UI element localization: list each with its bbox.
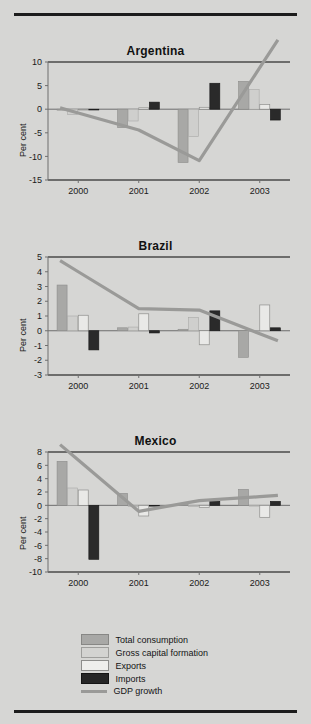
chart-legend: Total consumption Gross capital formatio… xyxy=(0,634,311,696)
bar-total-consumption xyxy=(178,329,188,330)
bar-exports xyxy=(260,305,270,331)
panel-brazil: Brazil Per cent 543210-1-2-3200020012002… xyxy=(0,217,311,412)
svg-text:-1: -1 xyxy=(34,341,42,351)
bar-imports xyxy=(149,102,159,109)
legend-item-exports: Exports xyxy=(81,660,231,671)
bar-exports xyxy=(139,314,149,331)
svg-text:-5: -5 xyxy=(34,128,42,138)
bar-imports xyxy=(210,83,220,109)
gross-capital-formation-swatch xyxy=(81,647,109,658)
legend-item-imports: Imports xyxy=(81,673,231,684)
legend-label-total-consumption: Total consumption xyxy=(116,635,189,645)
svg-text:0: 0 xyxy=(37,501,42,511)
svg-text:6: 6 xyxy=(37,461,42,471)
bar-gross-capital-formation xyxy=(128,109,138,121)
bar-gross-capital-formation xyxy=(249,505,259,506)
bar-exports xyxy=(199,505,209,507)
bar-imports xyxy=(89,331,99,350)
svg-text:4: 4 xyxy=(37,267,42,277)
legend-label-gdp-growth: GDP growth xyxy=(114,686,163,696)
svg-text:-2: -2 xyxy=(34,514,42,524)
x-axis-tick-label: 2002 xyxy=(189,186,209,196)
svg-text:3: 3 xyxy=(37,282,42,292)
bar-total-consumption xyxy=(118,328,128,331)
x-axis-tick-label: 2003 xyxy=(250,381,270,391)
bar-imports xyxy=(89,109,99,110)
x-axis-tick-label: 2003 xyxy=(250,186,270,196)
panel-mexico: Mexico Per cent 86420-2-4-6-8-1020002001… xyxy=(0,412,311,607)
bar-exports xyxy=(139,108,149,109)
bar-gross-capital-formation xyxy=(128,327,138,331)
svg-text:10: 10 xyxy=(32,57,42,67)
bar-total-consumption xyxy=(239,331,249,358)
x-axis-tick-label: 2001 xyxy=(129,381,149,391)
bar-exports xyxy=(78,315,88,330)
svg-text:-6: -6 xyxy=(34,541,42,551)
x-axis-tick-label: 2001 xyxy=(129,186,149,196)
svg-text:2: 2 xyxy=(37,296,42,306)
svg-text:1: 1 xyxy=(37,311,42,321)
x-axis-tick-label: 2000 xyxy=(68,186,88,196)
bar-imports xyxy=(149,505,159,506)
legend-label-gross-capital-formation: Gross capital formation xyxy=(116,648,209,658)
svg-text:-4: -4 xyxy=(34,527,42,537)
x-axis-tick-label: 2000 xyxy=(68,381,88,391)
bar-imports xyxy=(210,501,220,505)
svg-text:2: 2 xyxy=(37,487,42,497)
bar-total-consumption xyxy=(57,285,67,331)
svg-text:0: 0 xyxy=(37,104,42,114)
gdp-growth-line xyxy=(60,261,278,341)
x-axis-tick-label: 2002 xyxy=(189,381,209,391)
x-axis-tick-label: 2000 xyxy=(68,578,88,588)
bar-imports xyxy=(270,109,280,120)
figure-page: Argentina Per cent 1050-5-10-15200020012… xyxy=(0,0,311,724)
bar-gross-capital-formation xyxy=(189,109,199,136)
legend-item-gdp-growth: GDP growth xyxy=(81,686,231,696)
svg-text:5: 5 xyxy=(37,252,42,262)
bar-gross-capital-formation xyxy=(68,488,78,505)
imports-swatch xyxy=(81,673,109,684)
plot-area-argentina: 1050-5-10-152000200120022003 xyxy=(0,22,311,217)
bar-gross-capital-formation xyxy=(249,89,259,109)
total-consumption-swatch xyxy=(81,634,109,645)
bar-imports xyxy=(270,501,280,505)
exports-swatch xyxy=(81,660,109,671)
svg-text:-3: -3 xyxy=(34,370,42,380)
top-rule xyxy=(14,13,297,16)
gdp-growth-swatch xyxy=(81,690,107,693)
legend-item-gross-capital-formation: Gross capital formation xyxy=(81,647,231,658)
svg-text:4: 4 xyxy=(37,474,42,484)
x-axis-tick-label: 2002 xyxy=(189,578,209,588)
plot-area-mexico: 86420-2-4-6-8-102000200120022003 xyxy=(0,412,311,607)
bar-gross-capital-formation xyxy=(189,505,199,506)
bar-exports xyxy=(260,505,270,517)
svg-text:5: 5 xyxy=(37,81,42,91)
x-axis-tick-label: 2001 xyxy=(129,578,149,588)
legend-label-exports: Exports xyxy=(116,661,147,671)
bar-imports xyxy=(270,328,280,331)
bar-gross-capital-formation xyxy=(68,316,78,331)
svg-text:8: 8 xyxy=(37,447,42,457)
bottom-rule xyxy=(14,710,297,713)
bar-gross-capital-formation xyxy=(189,317,199,330)
svg-text:-8: -8 xyxy=(34,554,42,564)
panel-argentina: Argentina Per cent 1050-5-10-15200020012… xyxy=(0,22,311,217)
legend-item-total-consumption: Total consumption xyxy=(81,634,231,645)
bar-exports xyxy=(199,107,209,109)
svg-text:-2: -2 xyxy=(34,355,42,365)
svg-text:-15: -15 xyxy=(29,175,42,185)
bar-imports xyxy=(149,331,159,333)
chart-panels: Argentina Per cent 1050-5-10-15200020012… xyxy=(0,22,311,607)
bar-exports xyxy=(78,109,88,110)
bar-total-consumption xyxy=(57,461,67,505)
bar-exports xyxy=(260,104,270,109)
legend-label-imports: Imports xyxy=(116,674,146,684)
svg-text:-10: -10 xyxy=(29,567,42,577)
svg-text:-10: -10 xyxy=(29,152,42,162)
svg-text:0: 0 xyxy=(37,326,42,336)
bar-exports xyxy=(199,331,209,345)
bar-exports xyxy=(78,490,88,505)
plot-area-brazil: 543210-1-2-32000200120022003 xyxy=(0,217,311,412)
bar-imports xyxy=(89,505,99,559)
x-axis-tick-label: 2003 xyxy=(250,578,270,588)
